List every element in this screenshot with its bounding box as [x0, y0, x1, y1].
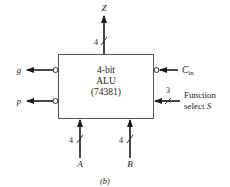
cin-label: Cin	[182, 65, 194, 77]
g-output: g	[17, 65, 58, 75]
function-select-bus-width: 3	[166, 86, 170, 95]
z-label: Z	[101, 3, 107, 13]
z-output: 4 Z	[94, 3, 107, 54]
alu-label-line3: (74381)	[91, 87, 121, 98]
p-label: p	[16, 96, 22, 106]
b-bus-width: 4	[119, 136, 123, 145]
g-inversion-bubble	[53, 68, 58, 73]
p-output: p	[16, 96, 58, 106]
cin-inversion-bubble	[154, 68, 159, 73]
cin-input: Cin	[154, 65, 194, 77]
p-inversion-bubble	[53, 99, 58, 104]
function-select-label-line2: select S	[184, 101, 212, 111]
function-select-input: 3 Function select S	[155, 86, 217, 111]
b-label: B	[127, 159, 133, 169]
a-label: A	[76, 159, 83, 169]
alu-block-diagram: 4-bit ALU (74381) 4 Z g p Cin 3 Function…	[0, 0, 230, 187]
alu-label-line2: ALU	[96, 76, 116, 86]
figure-caption: (b)	[100, 176, 110, 186]
a-bus-width: 4	[69, 136, 73, 145]
g-label: g	[17, 65, 22, 75]
b-input: 4 B	[119, 120, 133, 169]
alu-label-line1: 4-bit	[97, 65, 115, 75]
z-bus-width: 4	[94, 38, 98, 47]
a-input: 4 A	[69, 120, 83, 169]
function-select-label-line1: Function	[184, 90, 217, 100]
